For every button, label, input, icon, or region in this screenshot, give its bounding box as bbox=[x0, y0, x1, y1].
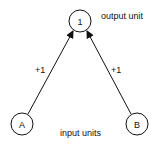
weight-b-label: +1 bbox=[111, 66, 121, 75]
node-b-label: B bbox=[134, 120, 140, 130]
node-output: 1 bbox=[69, 10, 91, 32]
node-output-label: 1 bbox=[77, 17, 82, 27]
output-unit-caption: output unit bbox=[101, 12, 143, 21]
network-diagram: 1 A B output unit +1 +1 input units bbox=[0, 0, 160, 148]
input-units-caption: input units bbox=[60, 129, 101, 138]
diagram-graphics: 1 A B bbox=[0, 0, 160, 148]
edge-b-to-output bbox=[87, 31, 131, 114]
node-b: B bbox=[126, 113, 148, 135]
weight-a-label: +1 bbox=[35, 66, 45, 75]
node-a-label: A bbox=[19, 120, 25, 130]
node-a: A bbox=[11, 113, 33, 135]
